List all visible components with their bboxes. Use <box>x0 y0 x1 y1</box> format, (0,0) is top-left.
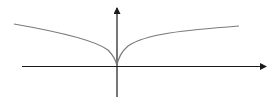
curve-left-branch <box>14 24 117 66</box>
curve-right-branch <box>117 26 239 66</box>
function-graph <box>0 0 277 100</box>
